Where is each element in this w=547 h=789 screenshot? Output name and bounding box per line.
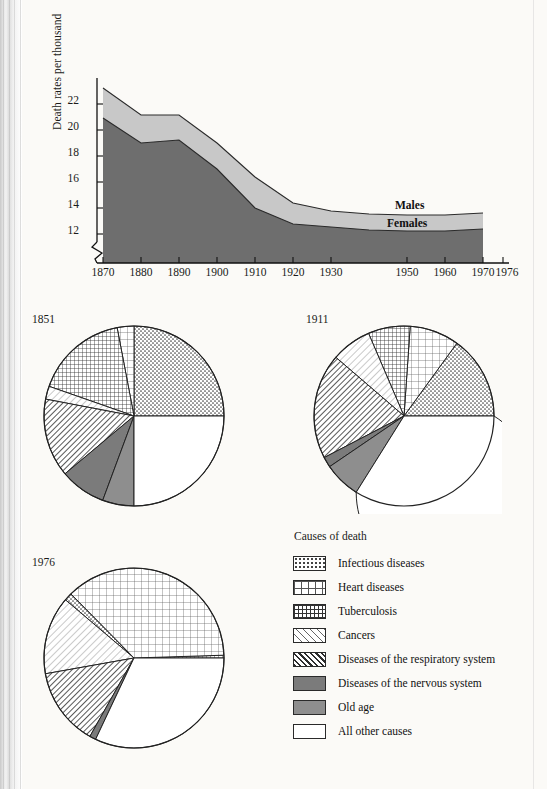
legend-item-tuberculosis: Tuberculosis (293, 599, 543, 623)
legend-item-cancers: Cancers (293, 623, 543, 647)
legend-title: Causes of death (294, 530, 543, 542)
x-tick-1930: 1930 (311, 266, 351, 278)
x-tick-1960: 1960 (425, 266, 465, 278)
legend-item-heart-diseases: Heart diseases (293, 575, 543, 599)
slice-all-other-causes (134, 416, 224, 506)
gutter-line (14, 0, 15, 789)
x-tick-1950: 1950 (387, 266, 427, 278)
x-tick-1976: 1976 (487, 266, 527, 278)
swatch-old-age-icon (293, 700, 326, 715)
x-tick-1870: 1870 (83, 266, 123, 278)
x-tick-1890: 1890 (159, 266, 199, 278)
swatch-nervous-system-icon (293, 676, 326, 691)
swatch-all-other-causes-icon (293, 724, 326, 739)
pie-chart-1911 (306, 318, 502, 514)
gutter-line (3, 0, 4, 789)
slice-infectious-diseases (134, 326, 224, 416)
swatch-infectious-diseases-icon (293, 556, 326, 571)
legend-label: All other causes (338, 725, 412, 737)
gutter-line (9, 0, 10, 789)
area-chart-plot (57, 72, 527, 272)
swatch-respiratory-system-icon (293, 652, 326, 667)
legend-label: Tuberculosis (338, 605, 397, 617)
x-tick-1880: 1880 (121, 266, 161, 278)
swatch-cancers-icon (293, 628, 326, 643)
legend-label: Old age (338, 701, 374, 713)
legend-item-all-other-causes: All other causes (293, 719, 543, 743)
legend-label: Diseases of the nervous system (338, 677, 482, 689)
swatch-heart-diseases-icon (293, 580, 326, 595)
series-label-females: Females (387, 217, 427, 229)
pie-chart-1976 (36, 560, 232, 756)
legend-item-respiratory-system: Diseases of the respiratory system (293, 647, 543, 671)
legend-label: Infectious diseases (338, 557, 425, 569)
x-tick-1900: 1900 (197, 266, 237, 278)
legend-label: Heart diseases (338, 581, 404, 593)
axis-break-zigzag (92, 242, 102, 263)
gutter-line (20, 0, 21, 789)
legend: Causes of death Infectious diseases Hear… (293, 530, 543, 743)
legend-item-nervous-system: Diseases of the nervous system (293, 671, 543, 695)
series-label-males: Males (395, 199, 424, 211)
legend-label: Cancers (338, 629, 375, 641)
pie-chart-1851 (36, 318, 232, 514)
legend-label: Diseases of the respiratory system (338, 653, 495, 665)
x-tick-1920: 1920 (273, 266, 313, 278)
x-tick-1910: 1910 (235, 266, 275, 278)
area-chart-death-rates: Death rates per thousand 22 20 18 16 14 … (57, 72, 527, 272)
legend-item-infectious-diseases: Infectious diseases (293, 551, 543, 575)
swatch-tuberculosis-icon (293, 604, 326, 619)
legend-item-old-age: Old age (293, 695, 543, 719)
